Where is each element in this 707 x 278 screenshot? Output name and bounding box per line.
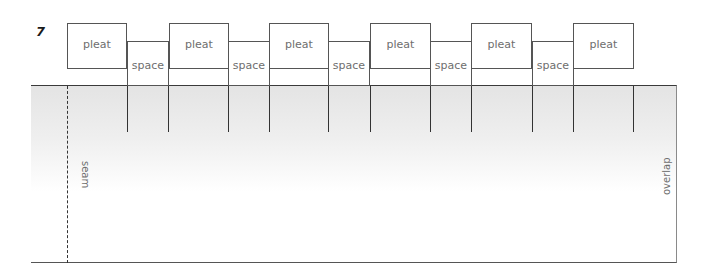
pleat-box: pleat	[67, 23, 127, 69]
fold-line	[370, 86, 371, 132]
space-box: space	[127, 41, 169, 86]
space-box: space	[430, 41, 472, 86]
pleat-box: pleat	[370, 23, 431, 69]
seam-line	[67, 86, 68, 263]
fold-line	[228, 86, 229, 132]
overlap-label: overlap	[661, 157, 672, 195]
space-box: space	[328, 41, 370, 86]
seam-label: seam	[80, 161, 91, 188]
pleat-box: pleat	[573, 23, 634, 69]
fold-line	[430, 86, 431, 132]
pleat-box: pleat	[269, 23, 329, 69]
fold-line	[573, 86, 574, 132]
pleat-box: pleat	[471, 23, 532, 69]
fold-line	[633, 86, 634, 132]
fold-line	[269, 86, 270, 132]
fold-line	[471, 86, 472, 132]
space-box: space	[532, 41, 574, 86]
space-box: space	[228, 41, 270, 86]
step-number: 7	[36, 24, 45, 39]
fold-line	[168, 86, 169, 132]
fold-line	[532, 86, 533, 132]
fold-line	[328, 86, 329, 132]
fold-line	[127, 86, 128, 132]
pleat-box: pleat	[169, 23, 229, 69]
